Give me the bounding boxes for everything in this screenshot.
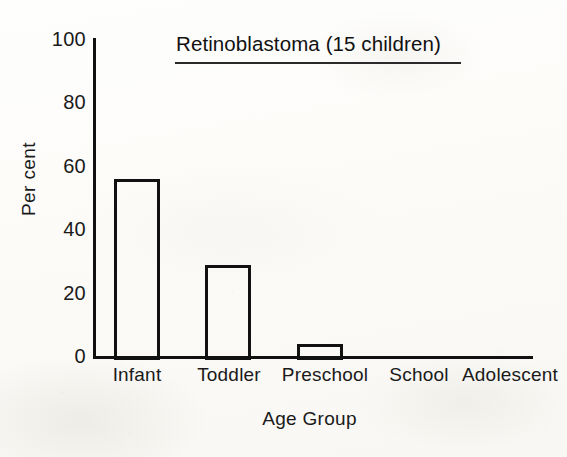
y-tick-label-0: 0	[30, 345, 86, 368]
y-axis-line	[93, 38, 96, 359]
x-tick-label-school: School	[378, 364, 460, 386]
x-tick-label-infant: Infant	[94, 364, 180, 386]
y-tick-label-60: 60	[30, 155, 86, 178]
chart-title: Retinoblastoma (15 children)	[176, 32, 441, 56]
y-tick-label-80: 80	[30, 91, 86, 114]
y-tick-label-group: 100 80 60 40 20 0	[26, 0, 86, 457]
retinoblastoma-bar-chart-figure: Retinoblastoma (15 children) Per cent 10…	[0, 0, 567, 457]
y-tick-label-100: 100	[30, 28, 86, 51]
x-tick-label-adolescent: Adolescent	[455, 364, 565, 386]
bar-infant	[114, 179, 160, 360]
x-tick-label-toddler: Toddler	[183, 364, 275, 386]
chart-title-underline	[175, 62, 461, 64]
y-tick-label-20: 20	[30, 282, 86, 305]
x-axis-title: Age Group	[262, 408, 357, 430]
bar-preschool	[297, 344, 343, 360]
y-tick-label-40: 40	[30, 218, 86, 241]
bar-toddler	[205, 265, 251, 360]
x-axis-title-wrap: Age Group	[0, 408, 567, 430]
x-tick-label-preschool: Preschool	[272, 364, 378, 386]
